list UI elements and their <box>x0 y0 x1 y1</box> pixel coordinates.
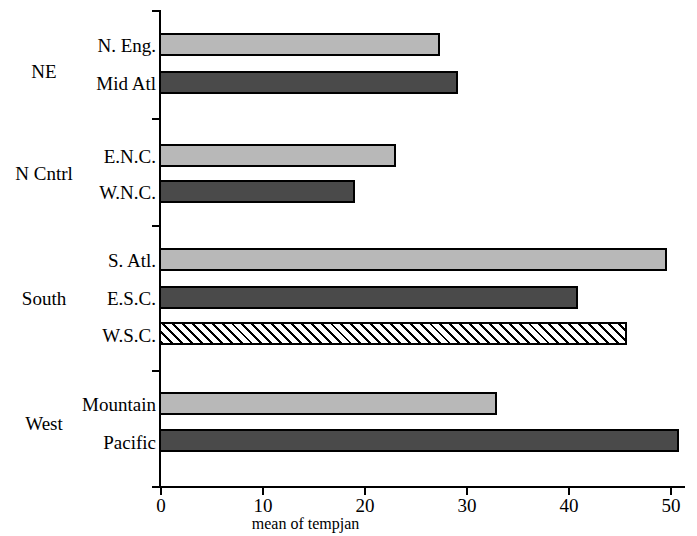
value-axis-tick-30 <box>466 486 468 495</box>
bar-pacific <box>159 429 679 452</box>
bar-wnc <box>159 180 355 203</box>
bar-mountain <box>159 392 497 415</box>
value-axis-label-30: 30 <box>437 496 497 515</box>
value-axis-label-20: 20 <box>335 496 395 515</box>
bar-mid-atl <box>159 71 458 94</box>
bar-s-atl <box>159 248 667 271</box>
value-axis-tick-20 <box>364 486 366 495</box>
group-label-n-cntrl-text: N Cntrl <box>15 163 73 184</box>
category-label-wnc: W.N.C. <box>99 183 156 202</box>
category-label-n-eng: N. Eng. <box>97 36 156 55</box>
value-axis-tick-50 <box>670 486 672 495</box>
group-label-n-cntrl: N Cntrl <box>0 164 140 183</box>
bar-wsc <box>159 322 627 345</box>
value-axis-label-0: 0 <box>131 496 191 515</box>
category-axis-tick-top <box>152 10 161 12</box>
value-axis-label-40: 40 <box>539 496 599 515</box>
group-label-ne-text: NE <box>31 61 56 82</box>
group-label-south-text: South <box>22 288 66 309</box>
value-axis-line <box>159 486 685 488</box>
category-axis-tick-group-2 <box>152 225 161 227</box>
category-label-wsc: W.S.C. <box>102 326 156 345</box>
category-label-pacific: Pacific <box>103 433 156 452</box>
group-label-west: West <box>0 414 140 433</box>
bar-enc <box>159 144 396 167</box>
category-label-s-atl: S. Atl. <box>108 251 156 270</box>
value-axis-title: mean of tempjan <box>0 516 697 532</box>
group-label-west-text: West <box>25 413 63 434</box>
value-axis-tick-40 <box>568 486 570 495</box>
bar-chart: 0 10 20 30 40 50 mean of tempjan N. Eng.… <box>0 0 697 536</box>
value-axis-label-50: 50 <box>641 496 697 515</box>
bar-n-eng <box>159 33 440 56</box>
value-axis-title-text: mean of tempjan <box>252 515 360 532</box>
category-label-mountain: Mountain <box>82 395 156 414</box>
value-axis-tick-0 <box>160 486 162 495</box>
group-label-ne: NE <box>0 62 140 81</box>
value-axis-tick-10 <box>262 486 264 495</box>
value-axis-label-10: 10 <box>233 496 293 515</box>
category-axis-tick-group-1 <box>152 118 161 120</box>
category-axis-tick-group-3 <box>152 370 161 372</box>
bar-esc <box>159 286 578 309</box>
group-label-south: South <box>0 289 140 308</box>
